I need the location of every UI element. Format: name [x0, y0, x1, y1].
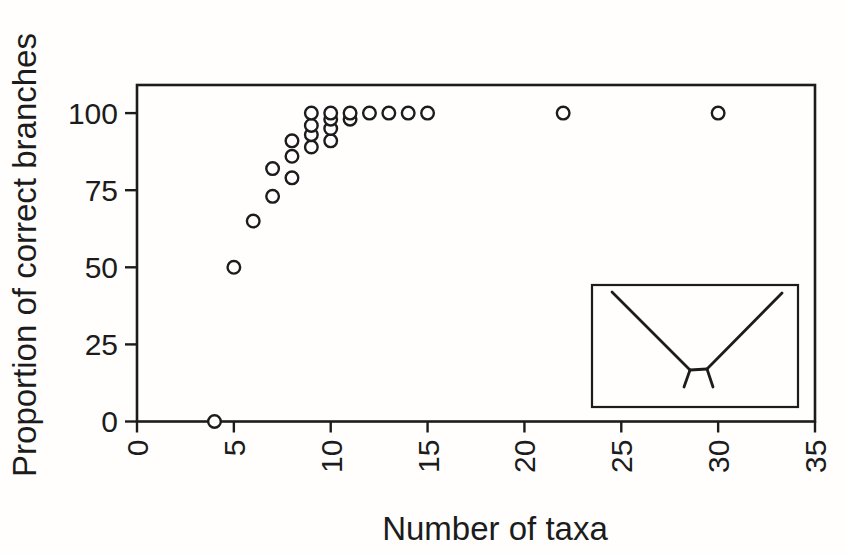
data-point — [228, 261, 241, 274]
data-point — [421, 107, 434, 120]
figure-canvas: 0255075100 05101520253035 Proportion of … — [0, 0, 847, 554]
x-tick-label: 10 — [315, 440, 348, 473]
data-point — [402, 107, 415, 120]
data-point — [324, 107, 337, 120]
x-tick-label: 20 — [508, 440, 541, 473]
figure: 0255075100 05101520253035 Proportion of … — [0, 0, 847, 554]
data-point — [324, 135, 337, 148]
data-point — [208, 415, 221, 428]
y-tick-label: 50 — [85, 251, 118, 284]
data-point — [286, 135, 299, 148]
data-point — [557, 107, 570, 120]
data-point — [344, 107, 357, 120]
data-point — [305, 141, 318, 154]
x-tick-label: 35 — [799, 440, 832, 473]
x-tick-label: 15 — [412, 440, 445, 473]
y-axis-ticks: 0255075100 — [68, 97, 137, 438]
data-point — [266, 162, 279, 175]
inset-panel — [592, 285, 798, 407]
data-point — [247, 215, 260, 228]
y-axis-title: Proportion of correct branches — [6, 33, 43, 477]
data-point — [712, 107, 725, 120]
data-point — [363, 107, 376, 120]
x-axis-ticks: 05101520253035 — [121, 422, 832, 473]
y-tick-label: 25 — [85, 328, 118, 361]
x-tick-label: 0 — [121, 440, 154, 457]
data-point — [286, 150, 299, 163]
x-tick-label: 25 — [605, 440, 638, 473]
data-point — [305, 107, 318, 120]
data-point — [286, 172, 299, 185]
data-point — [305, 119, 318, 132]
y-tick-label: 0 — [101, 405, 118, 438]
x-tick-label: 5 — [218, 440, 251, 457]
y-tick-label: 100 — [68, 97, 118, 130]
data-point — [383, 107, 396, 120]
x-axis-title: Number of taxa — [382, 510, 608, 547]
data-point — [266, 190, 279, 203]
x-tick-label: 30 — [702, 440, 735, 473]
y-tick-label: 75 — [85, 174, 118, 207]
